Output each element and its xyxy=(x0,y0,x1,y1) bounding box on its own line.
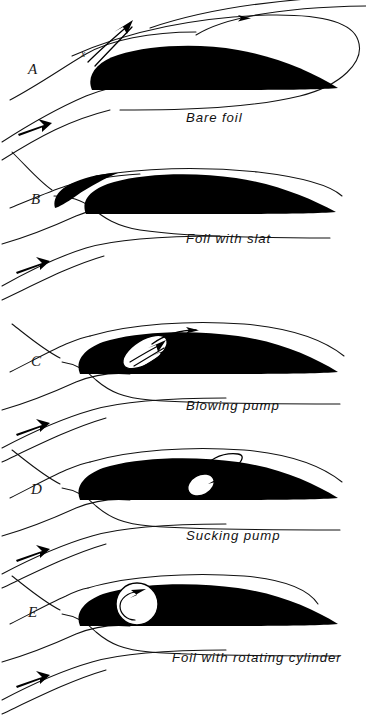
panel-b: B Foil with slat xyxy=(2,152,342,300)
inflow-arrowhead xyxy=(16,671,50,688)
panel-a: x A Bare foil xyxy=(2,0,366,160)
airfoil-boundary-layer-control-figure: x A Bare foil B Foil with slat xyxy=(0,0,366,717)
panel-b-letter: B xyxy=(31,191,40,207)
panel-d-caption: Sucking pump xyxy=(186,528,280,543)
panel-c: C Blowing pump xyxy=(2,323,344,463)
panel-e-letter: E xyxy=(27,604,37,620)
foil-section-a xyxy=(90,46,338,90)
inflow-arrowhead xyxy=(16,257,50,274)
panel-c-caption: Blowing pump xyxy=(186,398,280,413)
inflow-arrowhead xyxy=(16,545,50,562)
panel-b-caption: Foil with slat xyxy=(186,231,272,246)
panel-e: E Foil with rotating cylinder xyxy=(2,575,341,715)
rotating-cylinder-e xyxy=(116,583,158,625)
foil-section-c xyxy=(78,332,338,374)
panel-d-letter: D xyxy=(30,481,42,497)
foil-section-b xyxy=(84,174,336,214)
panel-a-caption: Bare foil xyxy=(186,110,243,125)
panel-e-caption: Foil with rotating cylinder xyxy=(172,650,341,665)
panel-a-annotation: x xyxy=(80,49,86,59)
panel-c-letter: C xyxy=(31,353,42,369)
inflow-arrowhead xyxy=(16,419,50,436)
panel-b-streamlines xyxy=(2,152,342,300)
panel-a-letter: A xyxy=(27,61,38,77)
figure-canvas: x A Bare foil B Foil with slat xyxy=(0,0,366,717)
panel-d: D Sucking pump xyxy=(2,449,342,589)
